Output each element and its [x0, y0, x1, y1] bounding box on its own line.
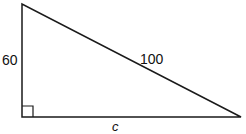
- vertical-leg-label: 60: [2, 52, 18, 68]
- horizontal-leg-label: c: [112, 119, 119, 134]
- hypotenuse-label: 100: [140, 51, 164, 67]
- triangle-outline: [22, 4, 241, 117]
- right-angle-marker: [22, 106, 33, 117]
- right-triangle-diagram: 60 100 c: [0, 0, 246, 134]
